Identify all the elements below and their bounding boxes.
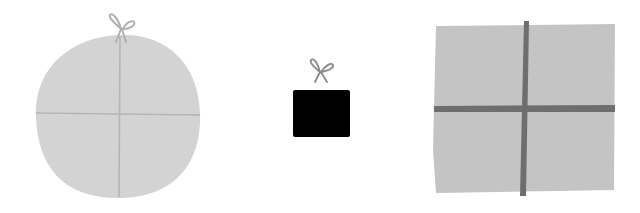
gift-illustration [0,0,640,213]
round-gift [36,14,200,198]
square-gift [433,21,615,196]
bow-icon [311,59,334,82]
small-black-gift [293,59,350,137]
